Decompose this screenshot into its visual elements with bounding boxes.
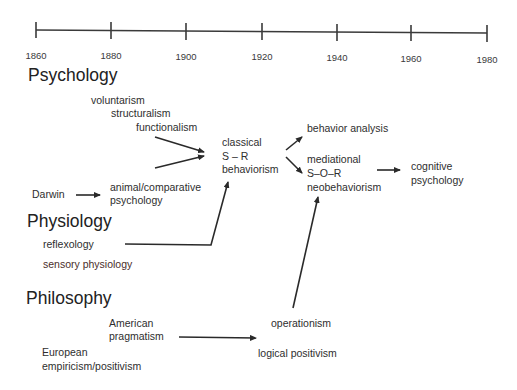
node-cognitive-line-1: cognitive xyxy=(411,160,452,173)
arrow-operationism-to-neobehaviorism xyxy=(293,197,318,308)
node-behavior-analysis: behavior analysis xyxy=(307,122,388,135)
node-classical-line-3: behaviorism xyxy=(222,163,279,176)
node-mediational-line-1: mediational xyxy=(307,153,361,166)
node-european-line-1: European xyxy=(42,346,88,359)
node-structuralism: structuralism xyxy=(111,107,171,120)
section-physiology: Physiology xyxy=(27,211,112,232)
node-mediational-line-2: S–O–R xyxy=(307,167,341,180)
node-logical-positivism: logical positivism xyxy=(258,347,337,360)
node-darwin: Darwin xyxy=(32,188,65,201)
arrow-functionalism-to-classical xyxy=(155,137,204,152)
tick-label-1960: 1960 xyxy=(400,53,421,64)
arrow-animal-to-classical xyxy=(155,156,204,168)
arrow-pragmatism-to-logical-positivism xyxy=(179,337,256,338)
tick-label-1860: 1860 xyxy=(25,50,46,61)
node-american-line-1: American xyxy=(109,317,153,330)
node-mediational-line-3: neobehaviorism xyxy=(307,181,381,194)
tick-label-1980: 1980 xyxy=(476,54,497,65)
node-european-line-2: empiricism/positivism xyxy=(42,360,141,373)
node-operationism: operationism xyxy=(271,317,331,330)
node-classical-line-2: S – R xyxy=(222,150,248,163)
arrow-classical-to-behavior-analysis xyxy=(286,137,302,150)
timeline-axis xyxy=(36,22,487,42)
arrow-classical-to-mediational xyxy=(286,157,302,173)
node-classical-line-1: classical xyxy=(222,136,262,149)
tick-label-1940: 1940 xyxy=(326,52,347,63)
section-psychology: Psychology xyxy=(28,65,118,86)
tick-label-1880: 1880 xyxy=(100,50,121,61)
section-philosophy: Philosophy xyxy=(26,288,112,309)
node-sensory-physiology: sensory physiology xyxy=(43,258,132,271)
node-american-line-2: pragmatism xyxy=(109,330,164,343)
node-animal-line-1: animal/comparative xyxy=(110,181,201,194)
node-cognitive-line-2: psychology xyxy=(411,174,464,187)
node-reflexology: reflexology xyxy=(43,238,94,251)
tick-label-1900: 1900 xyxy=(175,51,196,62)
tick-label-1920: 1920 xyxy=(251,51,272,62)
node-voluntarism: voluntarism xyxy=(91,94,145,107)
node-functionalism: functionalism xyxy=(136,121,197,134)
node-animal-line-2: psychology xyxy=(110,194,163,207)
history-diagram: 1860 1880 1900 1920 1940 1960 1980 Psych… xyxy=(0,0,517,390)
